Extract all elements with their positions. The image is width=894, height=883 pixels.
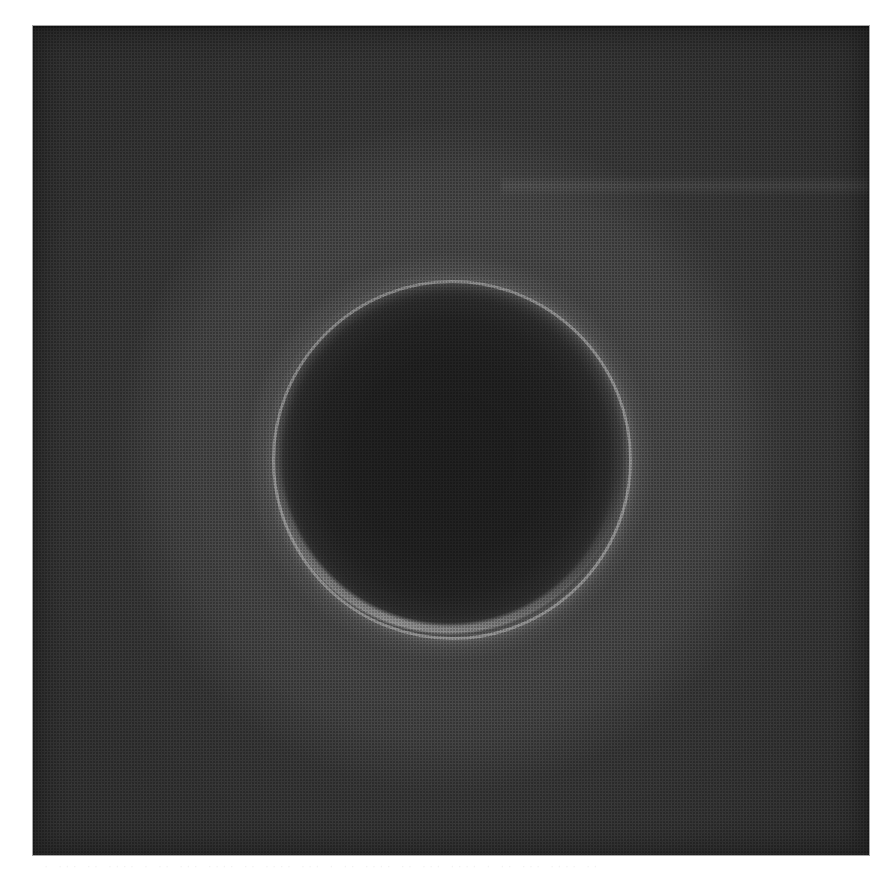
photographic-plate <box>33 26 869 855</box>
page-canvas: · ··· ·· ···· · ·· ··· ···· ·· ···· ··· … <box>0 0 894 883</box>
plate-edge-shading <box>33 26 869 855</box>
occulting-disk-layer <box>33 26 869 855</box>
showthrough-line-2: ··· · ···· ·· ··· · ···· ··· ·· · ···· ·… <box>44 873 850 878</box>
showthrough-line-1: · ··· ·· ···· · ·· ··· ···· ·· ···· ··· … <box>44 858 850 873</box>
corona-halo-layer <box>33 26 869 855</box>
sky-background-layer <box>33 26 869 855</box>
film-grain-layer <box>33 26 869 855</box>
showthrough-text-block: · ··· ·· ···· · ·· ··· ···· ·· ···· ··· … <box>44 858 850 878</box>
limb-glow-layer <box>33 26 869 855</box>
halo-bloom-layer <box>33 26 869 855</box>
limb-ring <box>272 280 632 640</box>
limb-bright-arc <box>271 279 627 635</box>
scan-banding-layer <box>33 26 869 855</box>
halftone-screen-layer <box>33 26 869 855</box>
emulsion-streak-artifact <box>501 175 869 197</box>
